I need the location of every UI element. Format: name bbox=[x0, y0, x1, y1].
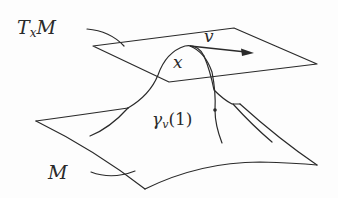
geodesic-curve bbox=[190, 46, 222, 143]
tangent-space-label-base: T bbox=[17, 16, 30, 38]
manifold-label: M bbox=[48, 163, 67, 182]
tangent-vector-arrow bbox=[190, 46, 254, 56]
tangent-space-label-tail: M bbox=[36, 16, 55, 38]
tangent-space-label: TxM bbox=[17, 18, 56, 39]
geodesic-label-arg: (1) bbox=[168, 109, 192, 129]
point-label: x bbox=[173, 54, 183, 71]
geodesic-label-base: γ bbox=[152, 109, 162, 129]
vector-label: v bbox=[204, 28, 214, 45]
tangent-space-callout bbox=[87, 29, 124, 46]
geodesic-endpoint-dot bbox=[213, 108, 217, 112]
geodesic-label: γv(1) bbox=[152, 111, 192, 130]
exponential-map-diagram: TxM v x γv(1) M bbox=[0, 0, 338, 198]
manifold-callout bbox=[91, 171, 135, 176]
